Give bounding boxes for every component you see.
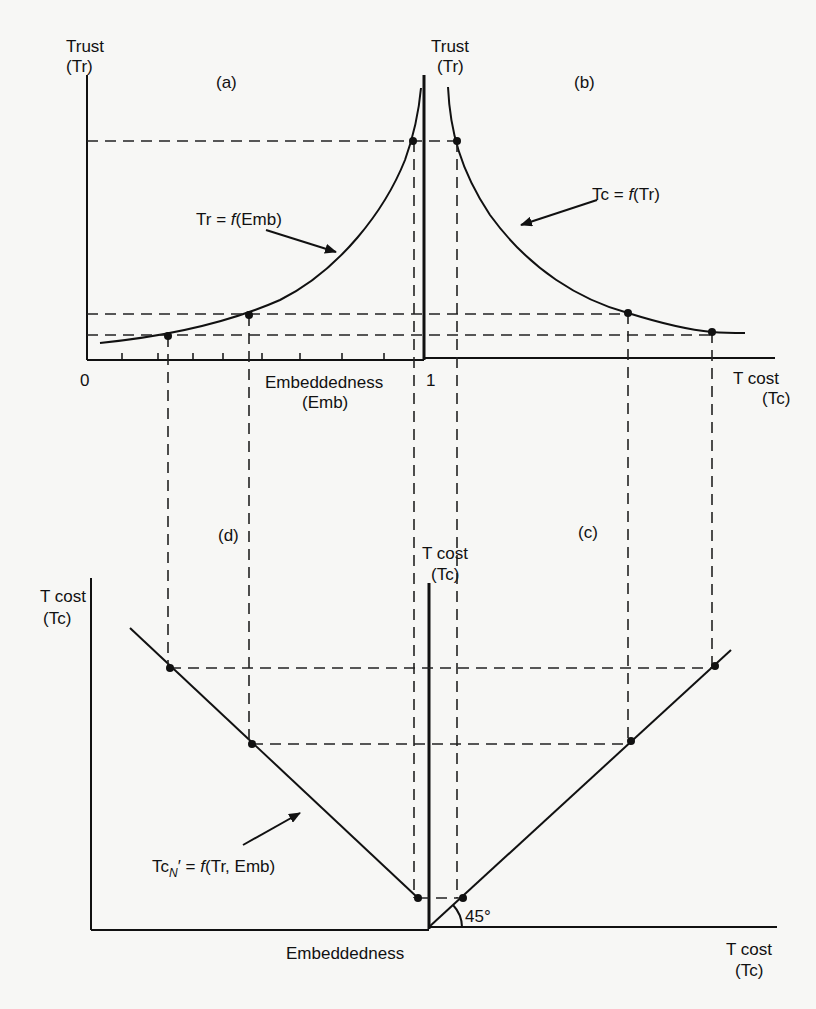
panel-c-y-label-1: T cost: [422, 544, 468, 563]
panel-d-y-label-1: T cost: [40, 587, 86, 606]
panel-d-label: (d): [218, 526, 239, 545]
panel-c-x-label-1: T cost: [726, 940, 772, 959]
panel-a-x-label-2: (Emb): [302, 393, 348, 412]
panel-a-y-label-1: Trust: [66, 37, 104, 56]
panel-d-x-label: Embeddedness: [286, 944, 404, 963]
panel-a-x-label-1: Embeddedness: [265, 373, 383, 392]
panel-a: Trust (Tr) (a) 0 1 Embeddedness (Emb) Tr…: [66, 37, 435, 412]
panel-c-x-label-2: (Tc): [735, 961, 763, 980]
panel-a-ticks: [122, 353, 384, 360]
panel-b-y-label-2: (Tr): [437, 57, 464, 76]
projection-lines: [87, 141, 715, 898]
panel-a-label: (a): [216, 73, 237, 92]
panel-c-angle-label: 45°: [465, 907, 491, 926]
panel-c-label: (c): [578, 523, 598, 542]
panel-b-x-label-2: (Tc): [762, 389, 790, 408]
panel-b: Trust (Tr) (b) Tc = f(Tr) T cost (Tc): [424, 37, 790, 408]
panel-b-x-label-1: T cost: [733, 369, 779, 388]
panel-d-arrow-icon: [243, 813, 300, 845]
panel-a-origin-label: 0: [80, 371, 89, 390]
panel-b-y-label-1: Trust: [431, 37, 469, 56]
four-quadrant-diagram: Trust (Tr) (a) 0 1 Embeddedness (Emb) Tr…: [0, 0, 816, 1009]
panel-d-curve-label: TcN′ = f(Tr, Emb): [152, 857, 275, 880]
panel-c-y-label-2: (Tc): [431, 565, 459, 584]
panel-a-y-label-2: (Tr): [66, 57, 93, 76]
panel-b-curve-label: Tc = f(Tr): [592, 185, 660, 204]
panel-c-45-line: [429, 650, 731, 927]
panel-a-x-end-label: 1: [426, 371, 435, 390]
panel-b-label: (b): [574, 73, 595, 92]
panel-d-y-label-2: (Tc): [43, 609, 71, 628]
panel-b-arrow-icon: [521, 200, 597, 225]
panel-a-arrow-icon: [266, 230, 336, 252]
panel-a-curve-label: Tr = f(Emb): [196, 210, 282, 229]
panel-c: 45° T cost (Tc) (c) T cost (Tc): [422, 523, 777, 980]
marked-points: [164, 137, 719, 902]
panel-b-curve: [448, 87, 745, 333]
panel-c-angle-arc: [453, 905, 462, 927]
